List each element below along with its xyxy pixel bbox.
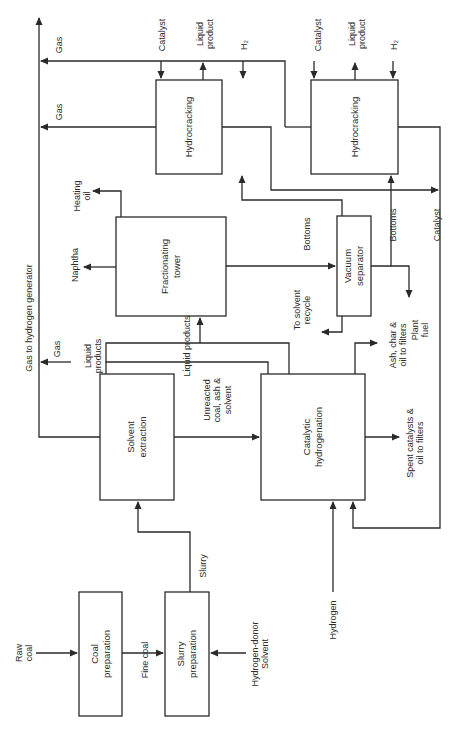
label-h2-1: H₂ <box>239 40 249 50</box>
flow-solvent-recycle <box>322 316 342 332</box>
node-label-solvent-extraction: Solventextraction <box>125 416 148 457</box>
label-h2-2: H₂ <box>389 40 399 50</box>
label-liquid-product-1-text: Liquid <box>195 22 205 46</box>
label-spent-catalysts-text: oil to filters <box>415 421 425 465</box>
label-heating-oil-text: oil <box>82 191 92 200</box>
label-hydrogen: Hydrogen <box>328 600 338 639</box>
label-unreacted-coal-text: solvent <box>223 385 233 414</box>
node-label-solvent-extraction-text: Solvent <box>125 421 136 453</box>
node-label-slurry-preparation-text: Slurry <box>175 641 186 666</box>
process-flow-diagram: CoalpreparationSlurrypreparationSolvente… <box>0 0 450 743</box>
label-slurry-text: Slurry <box>198 554 208 578</box>
node-label-coal-preparation-text: Coal <box>89 644 100 664</box>
label-fine-coal: Fine coal <box>140 642 150 679</box>
label-liquid-products-side-text: products <box>93 338 103 373</box>
label-liquid-products-side: Liquidproducts <box>83 338 104 373</box>
flow-ash-char <box>355 343 377 374</box>
label-hydrogen-donor-solvent: Hydrogen-donorSolvent <box>250 621 271 686</box>
node-label-vacuum-separator: Vacuumseparator <box>342 246 365 286</box>
flow-plant-fuel <box>391 266 409 297</box>
node-label-vacuum-separator-text: Vacuum <box>342 249 353 283</box>
label-bottoms-2: Bottoms <box>388 208 398 242</box>
flow-slurry <box>138 502 190 592</box>
label-slurry: Slurry <box>198 554 208 578</box>
label-h2-2-text: H₂ <box>389 40 399 50</box>
label-liquid-product-2-text: product <box>357 18 367 49</box>
label-catalyst-1-text: Catalyst <box>157 18 167 51</box>
flow-hc2-right <box>398 127 440 172</box>
node-label-solvent-extraction-text: extraction <box>137 416 148 457</box>
label-unreacted-coal: Unreactedcoal, ash &solvent <box>202 378 233 423</box>
node-label-hydrocracking-2: Hydrocracking <box>349 97 360 158</box>
label-to-solvent-recycle: To solventrecycle <box>292 289 313 330</box>
node-label-hydrocracking-1-text: Hydrocracking <box>183 97 194 158</box>
label-hydrogen-donor-solvent-text: Hydrogen-donor <box>250 621 260 686</box>
label-spent-catalysts: Spent catalysts &oil to filters <box>405 408 426 478</box>
node-label-hydrocracking-1: Hydrocracking <box>183 97 194 158</box>
label-gas-to-hydrogen-generator-text: Gas to hydrogen generator <box>24 264 34 372</box>
label-gas-mid-text: Gas <box>54 103 64 120</box>
label-to-solvent-recycle-text: To solvent <box>292 289 302 330</box>
node-label-fractionating-tower-text: tower <box>171 255 182 278</box>
label-liquid-product-1: Liquidproduct <box>195 18 216 49</box>
label-plant-fuel-text: fuel <box>420 323 430 338</box>
label-catalyst-right-text: Catalyst <box>432 208 442 241</box>
process-nodes: CoalpreparationSlurrypreparationSolvente… <box>79 80 398 716</box>
label-gas-mid: Gas <box>54 103 64 120</box>
label-fine-coal-text: Fine coal <box>140 642 150 679</box>
label-gas-top: Gas <box>54 36 64 53</box>
node-label-catalytic-hydrogenation-text: hydrogenation <box>313 407 324 467</box>
label-unreacted-coal-text: coal, ash & <box>212 378 222 423</box>
label-plant-fuel: Plantfuel <box>410 319 431 340</box>
label-ash-char-text: oil to filters <box>398 323 408 367</box>
label-liquid-products-bar: Liquid products <box>182 315 192 377</box>
flow-heating-oil <box>93 191 121 217</box>
flow-liquid-products-b <box>106 343 289 374</box>
label-bottoms-1: Bottoms <box>302 217 312 251</box>
flow-gas-trunk <box>39 18 100 437</box>
label-spent-catalysts-text: Spent catalysts & <box>405 408 415 478</box>
label-naphtha-text: Naphtha <box>70 248 80 282</box>
label-catalyst-2-text: Catalyst <box>313 18 323 51</box>
label-gas-lower-text: Gas <box>52 340 62 357</box>
label-bottoms-1-text: Bottoms <box>302 217 312 251</box>
label-raw-coal: Rawcoal <box>14 644 35 663</box>
label-heating-oil-text: Heating <box>72 180 82 211</box>
label-hydrogen-donor-solvent-text: Solvent <box>260 638 270 669</box>
label-raw-coal-text: coal <box>24 645 34 662</box>
node-label-fractionating-tower-text: Fractionating <box>159 239 170 294</box>
label-liquid-products-bar-text: Liquid products <box>182 315 192 377</box>
label-heating-oil: Heatingoil <box>72 180 93 211</box>
label-raw-coal-text: Raw <box>14 644 24 663</box>
label-h2-1-text: H₂ <box>239 40 249 50</box>
label-gas-lower: Gas <box>52 340 62 357</box>
node-label-hydrocracking-2-text: Hydrocracking <box>349 97 360 158</box>
label-bottoms-2-text: Bottoms <box>388 208 398 242</box>
node-label-slurry-preparation-text: preparation <box>187 630 198 678</box>
label-to-solvent-recycle-text: recycle <box>302 296 312 325</box>
label-catalyst-right: Catalyst <box>432 208 442 241</box>
label-gas-top-text: Gas <box>54 36 64 53</box>
label-hydrogen-text: Hydrogen <box>328 600 338 639</box>
label-catalyst-2: Catalyst <box>313 18 323 51</box>
node-label-coal-preparation-text: preparation <box>101 630 112 678</box>
node-label-vacuum-separator-text: separator <box>354 246 365 286</box>
label-gas-to-hydrogen-generator: Gas to hydrogen generator <box>24 264 34 372</box>
label-liquid-product-2: Liquidproduct <box>347 18 368 49</box>
label-plant-fuel-text: Plant <box>410 319 420 340</box>
label-naphtha: Naphtha <box>70 248 80 282</box>
label-liquid-product-1-text: product <box>205 18 215 49</box>
label-catalyst-1: Catalyst <box>157 18 167 51</box>
label-unreacted-coal-text: Unreacted <box>202 379 212 421</box>
label-ash-char-text: Ash, char & <box>388 322 398 369</box>
label-liquid-product-2-text: Liquid <box>347 22 357 46</box>
label-liquid-products-side-text: Liquid <box>83 344 93 368</box>
node-label-catalytic-hydrogenation-text: Catalytic <box>301 419 312 456</box>
flow-vacsep-to-hc1 <box>242 176 342 216</box>
label-ash-char: Ash, char &oil to filters <box>388 322 409 369</box>
